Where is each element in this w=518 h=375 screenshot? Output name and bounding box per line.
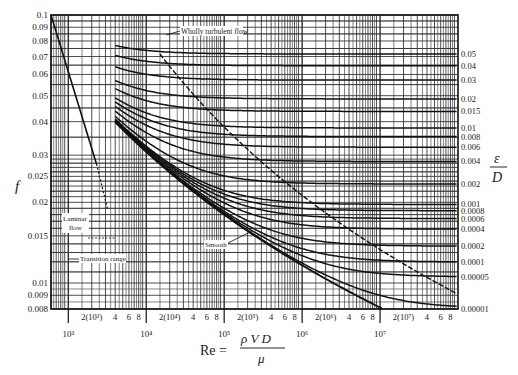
x-axis-title-numerator: ρ V D bbox=[240, 331, 271, 346]
y-tick-label: 0.08 bbox=[32, 36, 48, 46]
x-minor-tick-label: 2(10⁴) bbox=[159, 312, 181, 322]
roughness-label: 0.00005 bbox=[461, 272, 489, 282]
x-minor-tick-label: 4 bbox=[269, 312, 274, 322]
x-major-tick-label: 10⁷ bbox=[374, 329, 386, 339]
x-minor-tick-label: 2(10⁷) bbox=[393, 312, 415, 322]
laminar-line bbox=[51, 15, 96, 164]
y-axis-title: f bbox=[15, 178, 21, 194]
y-tick-label: 0.1 bbox=[37, 10, 48, 20]
roughness-label: 0.00001 bbox=[461, 304, 489, 314]
svg-text:flow: flow bbox=[69, 224, 83, 232]
y-tick-label: 0.009 bbox=[28, 290, 49, 300]
roughness-label: 0.015 bbox=[461, 106, 480, 116]
y-tick-label: 0.03 bbox=[32, 150, 48, 160]
roughness-label: 0.002 bbox=[461, 179, 480, 189]
svg-text:Transition range: Transition range bbox=[80, 255, 126, 263]
x-major-tick-label: 10⁶ bbox=[296, 329, 308, 339]
y-tick-label: 0.008 bbox=[28, 304, 49, 314]
roughness-label: 0.006 bbox=[461, 142, 480, 152]
roughness-label: 0.0001 bbox=[461, 257, 484, 267]
x-minor-tick-label: 6 bbox=[205, 312, 209, 322]
roughness-axis-title-eps: ε bbox=[494, 151, 500, 166]
roughness-label: 0.05 bbox=[461, 49, 476, 59]
x-minor-tick-label: 6 bbox=[283, 312, 287, 322]
y-tick-label: 0.01 bbox=[32, 278, 48, 288]
x-minor-tick-label: 8 bbox=[370, 312, 374, 322]
annotation-laminar: Laminar flow bbox=[62, 213, 89, 233]
roughness-label: 0.008 bbox=[461, 132, 480, 142]
moody-chart: 0.10.090.080.070.060.050.040.030.0250.02… bbox=[0, 0, 518, 375]
x-major-tick-label: 10³ bbox=[62, 329, 74, 339]
y-tick-label: 0.06 bbox=[32, 69, 48, 79]
roughness-curves bbox=[51, 15, 457, 308]
y-tick-label: 0.02 bbox=[32, 197, 48, 207]
x-axis-title-denominator: μ bbox=[257, 351, 265, 366]
x-minor-tick-label: 4 bbox=[347, 312, 352, 322]
y-tick-label: 0.015 bbox=[28, 231, 49, 241]
roughness-label: 0.004 bbox=[461, 156, 481, 166]
roughness-label: 0.0002 bbox=[461, 241, 484, 251]
x-major-tick-label: 10⁴ bbox=[140, 329, 152, 339]
x-minor-tick-label: 8 bbox=[292, 312, 296, 322]
y-axis-ticks: 0.10.090.080.070.060.050.040.030.0250.02… bbox=[28, 10, 49, 314]
roughness-label: 0.0006 bbox=[461, 214, 484, 224]
roughness-axis-title-d: D bbox=[491, 170, 502, 185]
svg-text:Laminar: Laminar bbox=[63, 215, 87, 223]
roughness-label: 0.03 bbox=[461, 75, 476, 85]
roughness-label: 0.02 bbox=[461, 94, 476, 104]
y-tick-label: 0.09 bbox=[32, 22, 48, 32]
y-tick-label: 0.04 bbox=[32, 117, 48, 127]
y-tick-label: 0.07 bbox=[32, 52, 48, 62]
x-minor-tick-label: 2(10⁶) bbox=[315, 312, 337, 322]
svg-text:Wholly turbulent flow: Wholly turbulent flow bbox=[181, 27, 249, 36]
x-minor-tick-label: 4 bbox=[425, 312, 430, 322]
annotation-transition: Transition range bbox=[68, 238, 126, 263]
x-minor-tick-label: 6 bbox=[439, 312, 443, 322]
x-minor-tick-label: 6 bbox=[127, 312, 131, 322]
x-minor-tick-label: 8 bbox=[448, 312, 452, 322]
annotation-smooth: Smooth bbox=[204, 231, 252, 249]
x-minor-tick-label: 4 bbox=[113, 312, 118, 322]
svg-text:Smooth: Smooth bbox=[205, 241, 227, 249]
x-major-tick-label: 10⁵ bbox=[218, 329, 230, 339]
x-minor-tick-label: 2(10³) bbox=[81, 312, 102, 322]
x-axis-title-re: Re = bbox=[200, 343, 227, 358]
roughness-label: 0.0004 bbox=[461, 224, 485, 234]
roughness-label: 0.04 bbox=[461, 61, 477, 71]
y-tick-label: 0.05 bbox=[32, 91, 48, 101]
x-minor-tick-label: 2(10⁵) bbox=[237, 312, 259, 322]
roughness-axis-labels: 0.050.040.030.020.0150.010.0080.0060.004… bbox=[461, 49, 489, 314]
x-minor-tick-label: 6 bbox=[361, 312, 365, 322]
x-minor-tick-label: 8 bbox=[137, 312, 141, 322]
x-minor-tick-label: 8 bbox=[214, 312, 218, 322]
y-tick-label: 0.025 bbox=[28, 171, 49, 181]
x-minor-tick-label: 4 bbox=[191, 312, 196, 322]
